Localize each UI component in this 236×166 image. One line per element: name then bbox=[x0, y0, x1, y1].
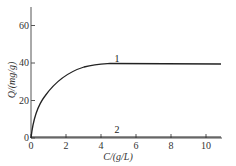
y-axis-label: Q/(mg/g) bbox=[6, 61, 18, 98]
x-tick-label: 10 bbox=[201, 140, 211, 151]
chart: 0 20 40 60 0 2 4 6 8 10 C/(g/L) Q/(mg/g)… bbox=[0, 0, 236, 166]
curve-1-label: 1 bbox=[115, 53, 120, 64]
y-tick-label: 20 bbox=[19, 95, 29, 106]
y-tick-label: 60 bbox=[19, 20, 29, 31]
curve-1 bbox=[31, 64, 221, 139]
x-tick-label: 6 bbox=[134, 140, 139, 151]
x-tick-label: 8 bbox=[169, 140, 174, 151]
x-axis-label: C/(g/L) bbox=[103, 151, 133, 163]
curve-2-label: 2 bbox=[115, 124, 120, 135]
x-tick-label: 2 bbox=[64, 140, 69, 151]
x-tick-label: 4 bbox=[99, 140, 104, 151]
x-tick-label: 0 bbox=[29, 140, 34, 151]
y-tick-label: 40 bbox=[19, 57, 29, 68]
